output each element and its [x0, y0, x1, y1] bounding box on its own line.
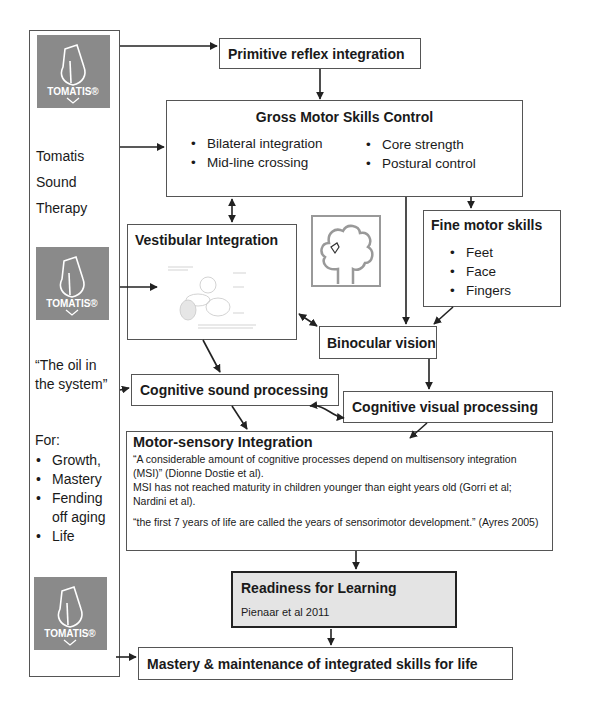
node-binocular: Binocular vision: [319, 326, 437, 359]
node-gross-motor: Gross Motor Skills Control Bilateral int…: [166, 100, 523, 197]
for-item: Fending off aging: [34, 489, 116, 527]
node-primitive-reflex: Primitive reflex integration: [219, 38, 421, 69]
gross-motor-list-right: Core strength Postural control: [364, 135, 476, 173]
for-list: Growth, Mastery Fending off aging Life: [34, 451, 118, 546]
node-vestibular: Vestibular Integration: [127, 224, 297, 340]
node-fine-motor: Fine motor skills Feet Face Fingers: [423, 210, 561, 307]
svg-text:TOMATIS®: TOMATIS®: [46, 298, 98, 309]
node-cognitive-visual: Cognitive visual processing: [343, 391, 553, 423]
for-item: Mastery: [34, 470, 118, 489]
therapy-label: Tomatis Sound Therapy: [36, 147, 87, 218]
fine-motor-list: Feet Face Fingers: [448, 243, 511, 300]
tomatis-logo-top: TOMATIS®: [37, 35, 110, 108]
tomatis-logo-icon: TOMATIS®: [37, 35, 110, 108]
inner-ear-illustration-icon: [138, 255, 288, 335]
gross-motor-list-left: Bilateral integration Mid-line crossing: [189, 134, 323, 172]
node-mastery: Mastery & maintenance of integrated skil…: [138, 647, 513, 680]
tomatis-logo-bottom: TOMATIS®: [34, 577, 107, 650]
node-readiness: Readiness for Learning Pienaar et al 201…: [231, 571, 457, 628]
for-item: Growth,: [34, 451, 118, 470]
for-label: For:: [35, 431, 60, 450]
oil-quote: “The oil in the system”: [35, 356, 107, 394]
tomatis-logo-middle: TOMATIS®: [36, 247, 109, 320]
for-item: Life: [34, 527, 118, 546]
tomatis-logo-icon: TOMATIS®: [34, 577, 107, 650]
node-motor-sensory: Motor-sensory Integration “A considerabl…: [126, 431, 553, 551]
svg-text:TOMATIS®: TOMATIS®: [47, 86, 99, 97]
svg-text:TOMATIS®: TOMATIS®: [44, 628, 96, 639]
tomatis-logo-icon: TOMATIS®: [36, 247, 109, 320]
tree-drawing-icon: [311, 215, 381, 287]
node-cognitive-sound: Cognitive sound processing: [131, 374, 339, 406]
